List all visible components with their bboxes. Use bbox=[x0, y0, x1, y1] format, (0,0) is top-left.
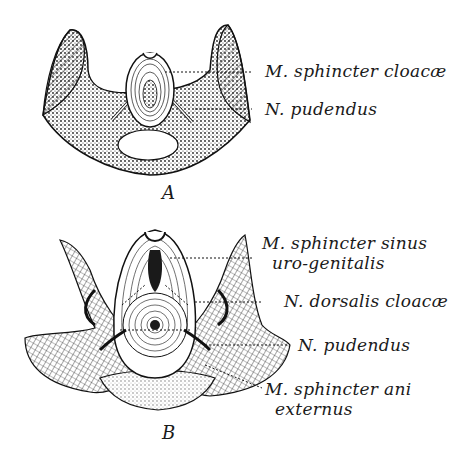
label-b-sphincter-sinus-line2: uro-genitalis bbox=[272, 254, 385, 272]
panel-a-letter: A bbox=[162, 182, 175, 203]
label-b-n-pudendus: N. pudendus bbox=[298, 336, 410, 354]
panel-a-sphincter-cloacae bbox=[126, 53, 174, 127]
panel-b-anal-opening bbox=[150, 320, 160, 330]
panel-b-sphincter-ani bbox=[123, 293, 187, 357]
label-b-sphincter-ani-line1: M. sphincter ani bbox=[265, 380, 411, 398]
label-b-n-dorsalis-cloacae: N. dorsalis cloacæ bbox=[284, 292, 448, 310]
panel-b-drawing bbox=[25, 230, 290, 410]
label-a-n-pudendus: N. pudendus bbox=[265, 100, 377, 118]
label-b-sphincter-sinus-line1: M. sphincter sinus bbox=[262, 234, 427, 252]
label-b-sphincter-ani-line2: externus bbox=[275, 400, 353, 418]
panel-a-drawing bbox=[43, 25, 252, 175]
panel-a-cloacal-mound bbox=[118, 130, 178, 160]
label-a-sphincter-cloacae: M. sphincter cloacæ bbox=[265, 62, 447, 80]
panel-b-letter: B bbox=[162, 422, 175, 443]
